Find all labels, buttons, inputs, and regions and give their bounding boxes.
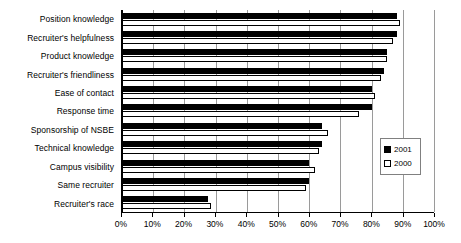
x-tick bbox=[371, 213, 372, 217]
bar-chart: Position knowledgeRecruiter's helpfulnes… bbox=[0, 0, 461, 243]
bar-2000 bbox=[122, 148, 319, 154]
x-tick-label: 60% bbox=[300, 219, 317, 229]
bar-2001 bbox=[122, 13, 397, 19]
x-tick-label: 30% bbox=[206, 219, 223, 229]
legend-swatch-2001 bbox=[384, 146, 391, 153]
x-tick-label: 90% bbox=[394, 219, 411, 229]
bar-row bbox=[122, 28, 434, 46]
plot-area bbox=[121, 10, 434, 213]
x-tick bbox=[434, 213, 435, 217]
bar-row bbox=[122, 65, 434, 83]
bar-2000 bbox=[122, 75, 381, 81]
category-label: Recruiter's race bbox=[0, 195, 118, 213]
bar-rows bbox=[122, 10, 434, 212]
bar-2000 bbox=[122, 167, 315, 173]
bar-2001 bbox=[122, 104, 372, 110]
legend: 20012000 bbox=[380, 138, 421, 175]
x-tick bbox=[121, 213, 122, 217]
gridline bbox=[434, 10, 435, 212]
category-label: Ease of contact bbox=[0, 84, 118, 102]
category-label: Response time bbox=[0, 102, 118, 120]
x-tick bbox=[215, 213, 216, 217]
legend-label: 2001 bbox=[394, 145, 412, 154]
x-tick-label: 10% bbox=[144, 219, 161, 229]
bar-row bbox=[122, 175, 434, 193]
bar-2000 bbox=[122, 185, 306, 191]
x-axis: 0%10%20%30%40%50%60%70%80%90%100% bbox=[121, 213, 434, 237]
bar-2000 bbox=[122, 93, 375, 99]
x-tick-label: 0% bbox=[115, 219, 127, 229]
x-tick bbox=[340, 213, 341, 217]
bar-2001 bbox=[122, 86, 372, 92]
legend-item: 2000 bbox=[384, 159, 417, 168]
legend-label: 2000 bbox=[394, 159, 412, 168]
bar-row bbox=[122, 47, 434, 65]
category-label: Recruiter's friendliness bbox=[0, 65, 118, 83]
category-label: Recruiter's helpfulness bbox=[0, 28, 118, 46]
bar-2001 bbox=[122, 160, 309, 166]
bar-2000 bbox=[122, 111, 359, 117]
bar-2000 bbox=[122, 56, 387, 62]
category-axis-labels: Position knowledgeRecruiter's helpfulnes… bbox=[0, 10, 118, 213]
category-label: Campus visibility bbox=[0, 158, 118, 176]
x-tick bbox=[309, 213, 310, 217]
x-tick-label: 20% bbox=[175, 219, 192, 229]
bar-2001 bbox=[122, 31, 397, 37]
category-label: Technical knowledge bbox=[0, 139, 118, 157]
category-label: Sponsorship of NSBE bbox=[0, 121, 118, 139]
bar-row bbox=[122, 102, 434, 120]
category-label: Position knowledge bbox=[0, 10, 118, 28]
x-tick-label: 80% bbox=[363, 219, 380, 229]
x-tick-label: 50% bbox=[269, 219, 286, 229]
bar-2001 bbox=[122, 49, 387, 55]
bar-row bbox=[122, 83, 434, 101]
bar-2000 bbox=[122, 130, 328, 136]
x-tick bbox=[246, 213, 247, 217]
category-label: Same recruiter bbox=[0, 176, 118, 194]
bar-row bbox=[122, 10, 434, 28]
bar-2001 bbox=[122, 68, 384, 74]
bar-2000 bbox=[122, 20, 400, 26]
x-tick-label: 100% bbox=[423, 219, 445, 229]
x-tick bbox=[184, 213, 185, 217]
x-tick-label: 70% bbox=[332, 219, 349, 229]
bar-2001 bbox=[122, 123, 322, 129]
bar-2000 bbox=[122, 38, 393, 44]
bar-2001 bbox=[122, 141, 322, 147]
bar-row bbox=[122, 120, 434, 138]
x-tick bbox=[152, 213, 153, 217]
category-label: Product knowledge bbox=[0, 47, 118, 65]
bar-2000 bbox=[122, 203, 211, 209]
bar-2001 bbox=[122, 196, 208, 202]
x-tick-label: 40% bbox=[238, 219, 255, 229]
bar-2001 bbox=[122, 178, 309, 184]
legend-item: 2001 bbox=[384, 145, 417, 154]
legend-swatch-2000 bbox=[384, 160, 391, 167]
x-tick bbox=[278, 213, 279, 217]
x-tick bbox=[403, 213, 404, 217]
bar-row bbox=[122, 194, 434, 212]
